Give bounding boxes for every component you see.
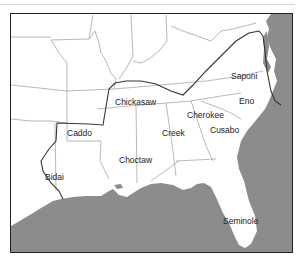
label-creek: Creek — [162, 129, 185, 138]
label-saponi: Saponi — [231, 72, 257, 81]
label-choctaw: Choctaw — [119, 156, 152, 165]
lake — [114, 184, 123, 189]
gulf-of-mexico — [11, 183, 253, 253]
label-seminole: Seminole — [223, 217, 258, 226]
label-caddo: Caddo — [67, 129, 92, 138]
label-eno: Eno — [239, 97, 254, 106]
label-cusabo: Cusabo — [210, 126, 239, 135]
label-chickasaw: Chickasaw — [115, 98, 156, 107]
label-bidai: Bidai — [45, 173, 64, 182]
label-cherokee: Cherokee — [187, 111, 224, 120]
top-divider-line — [0, 4, 295, 5]
